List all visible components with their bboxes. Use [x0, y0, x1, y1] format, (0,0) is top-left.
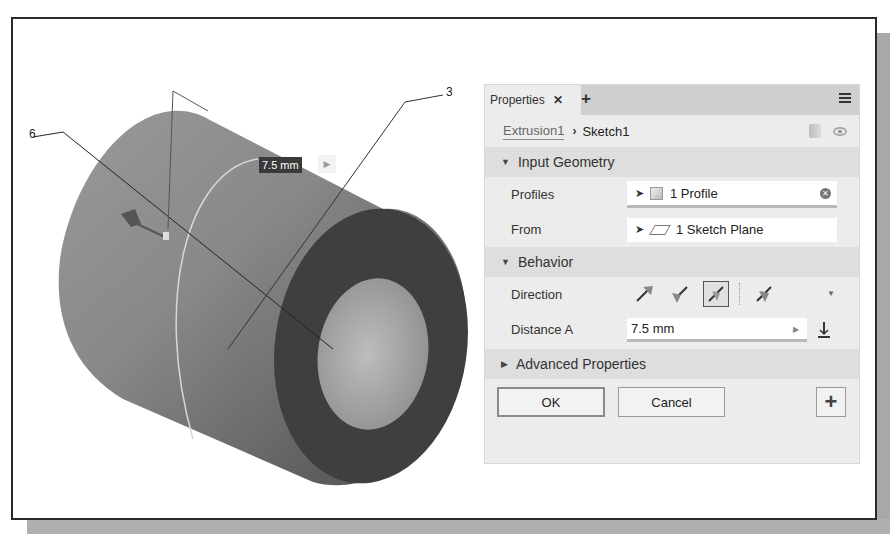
dimension-flyout-arrow-icon[interactable]: ▶ [318, 155, 336, 173]
distance-input[interactable]: 7.5 mm [627, 318, 807, 342]
section-input-geometry[interactable]: ▼ Input Geometry [485, 147, 859, 177]
properties-panel: Properties ✕ + Extrusion1 › Sketch1 ▼ In… [484, 84, 860, 464]
tab-label: Properties [490, 93, 545, 107]
breadcrumb-chevron-icon: › [572, 124, 576, 138]
expand-triangle-icon: ▼ [501, 157, 510, 167]
section-title: Advanced Properties [516, 356, 646, 372]
from-row: From ➤ 1 Sketch Plane [485, 212, 859, 247]
hamburger-menu-icon[interactable] [839, 93, 851, 105]
profiles-label: Profiles [511, 187, 554, 202]
distance-row: Distance A 7.5 mm ▶ [485, 312, 859, 347]
cylinder-model [13, 19, 483, 516]
callout-6: 6 [29, 127, 36, 141]
direction-asymmetric-icon[interactable] [751, 281, 777, 307]
direction-separator [739, 283, 741, 305]
profiles-value: 1 Profile [670, 186, 718, 201]
expand-triangle-icon: ▼ [501, 257, 510, 267]
direction-label: Direction [511, 287, 562, 302]
section-title: Behavior [518, 254, 573, 270]
button-row: OK Cancel + [485, 379, 859, 425]
breadcrumb-sketch[interactable]: Sketch1 [582, 124, 629, 139]
add-tab-button[interactable]: + [581, 89, 591, 109]
from-selector[interactable]: ➤ 1 Sketch Plane [627, 218, 837, 242]
visibility-eye-icon[interactable] [833, 127, 847, 136]
direction-flipped-icon[interactable] [667, 281, 693, 307]
callout-3: 3 [446, 85, 453, 99]
profile-icon [650, 187, 663, 200]
preview-cube-icon[interactable] [809, 124, 821, 138]
breadcrumb-extrusion[interactable]: Extrusion1 [503, 123, 564, 140]
from-value: 1 Sketch Plane [676, 222, 763, 237]
ok-button[interactable]: OK [497, 387, 605, 417]
close-tab-icon[interactable]: ✕ [553, 93, 563, 107]
tab-properties[interactable]: Properties ✕ [485, 85, 581, 115]
collapse-triangle-icon: ▶ [501, 359, 508, 369]
cancel-button[interactable]: Cancel [618, 387, 725, 417]
frame-shadow-bottom [27, 519, 890, 534]
sketch-plane-icon [649, 225, 671, 235]
section-title: Input Geometry [518, 154, 615, 170]
from-label: From [511, 222, 541, 237]
clear-selection-icon[interactable]: ✕ [820, 188, 831, 199]
graphics-viewport[interactable]: 6 3 7.5 mm ▶ [13, 19, 483, 516]
select-arrow-icon: ➤ [635, 223, 644, 236]
profiles-selector[interactable]: ➤ 1 Profile ✕ [627, 181, 837, 208]
distance-flyout-arrow-icon[interactable]: ▶ [793, 325, 799, 334]
measure-icon[interactable] [817, 321, 831, 339]
distance-dimension-label[interactable]: 7.5 mm [259, 157, 302, 173]
distance-label: Distance A [511, 322, 573, 337]
breadcrumb: Extrusion1 › Sketch1 [485, 115, 859, 147]
profiles-row: Profiles ➤ 1 Profile ✕ [485, 177, 859, 212]
frame-shadow-right [876, 33, 890, 533]
direction-default-icon[interactable] [631, 281, 657, 307]
direction-symmetric-icon[interactable] [703, 281, 729, 307]
apply-plus-button[interactable]: + [816, 387, 846, 417]
direction-dropdown-icon[interactable]: ▼ [827, 289, 835, 298]
direction-row: Direction ▼ [485, 277, 859, 312]
section-behavior[interactable]: ▼ Behavior [485, 247, 859, 277]
panel-tabbar: Properties ✕ + [485, 85, 859, 115]
section-advanced-properties[interactable]: ▶ Advanced Properties [485, 349, 859, 379]
select-arrow-icon: ➤ [635, 187, 644, 200]
